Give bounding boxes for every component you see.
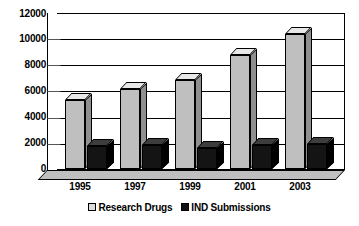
y-tick-label-6000: 6000	[2, 86, 46, 96]
y-tick-label-12000: 12000	[2, 9, 46, 19]
y-tick-label-8000: 8000	[2, 60, 46, 70]
chart-legend: Research Drugs IND Submissions	[0, 199, 359, 215]
bar-face	[87, 146, 107, 169]
x-tick-label-1995: 1995	[57, 181, 103, 193]
gridline-depth-2000	[47, 144, 61, 145]
bar-research-drugs-1999	[175, 80, 195, 169]
x-tick-label-1999: 1999	[167, 181, 213, 193]
x-tick-label-2003: 2003	[277, 181, 323, 193]
gridline-depth-10000	[47, 39, 61, 40]
gridline-depth-6000	[47, 91, 61, 92]
bar-research-drugs-2003	[285, 34, 305, 169]
legend-swatch-icon-ind-submissions	[181, 203, 189, 211]
chart-container: 12000 10000 8000 6000 4000 2000 0	[0, 0, 359, 226]
gridline-depth-8000	[47, 65, 61, 66]
legend-item-ind-submissions: IND Submissions	[181, 202, 270, 213]
bar-face	[307, 144, 327, 169]
bar-research-drugs-2001	[230, 55, 250, 169]
legend-label-ind-submissions: IND Submissions	[191, 202, 270, 213]
y-tick-label-0: 0	[2, 164, 46, 174]
y-tick-label-10000: 10000	[2, 34, 46, 44]
y-axis-labels: 12000 10000 8000 6000 4000 2000 0	[0, 0, 46, 226]
bar-face	[65, 100, 85, 169]
bar-face	[252, 145, 272, 169]
bar-face	[285, 34, 305, 169]
gridline-depth-4000	[47, 118, 61, 119]
y-tick-label-2000: 2000	[2, 138, 46, 148]
bar-ind-submissions-2003	[307, 144, 327, 169]
plot-floor	[38, 170, 345, 180]
bar-face	[120, 89, 140, 169]
bar-research-drugs-1995	[65, 100, 85, 169]
bar-ind-submissions-1999	[197, 148, 217, 169]
bar-research-drugs-1997	[120, 89, 140, 169]
bar-ind-submissions-2001	[252, 145, 272, 169]
plot-area	[47, 13, 345, 179]
x-tick-label-2001: 2001	[222, 181, 268, 193]
bar-face	[142, 145, 162, 169]
legend-item-research-drugs: Research Drugs	[88, 202, 172, 213]
bar-ind-submissions-1995	[87, 146, 107, 169]
bar-face	[197, 148, 217, 169]
legend-label-research-drugs: Research Drugs	[98, 202, 172, 213]
bar-face	[175, 80, 195, 169]
legend-swatch-icon-research-drugs	[88, 203, 96, 211]
x-axis-labels: 1995 1997 1999 2001 2003	[47, 181, 345, 197]
y-tick-label-4000: 4000	[2, 112, 46, 122]
bar-face	[230, 55, 250, 169]
x-tick-label-1997: 1997	[112, 181, 158, 193]
bar-ind-submissions-1997	[142, 145, 162, 169]
